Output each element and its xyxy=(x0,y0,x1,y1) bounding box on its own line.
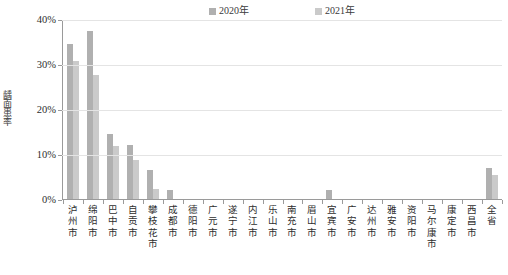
x-category-label: 自贡市 xyxy=(123,205,143,273)
x-tick-mark xyxy=(63,200,64,204)
x-category-char: 阳 xyxy=(188,216,198,227)
x-category-char: 康 xyxy=(447,205,457,216)
x-category-label: 成都市 xyxy=(163,205,183,273)
x-category-char: 宁 xyxy=(228,216,238,227)
bar xyxy=(93,75,99,199)
legend-item-2021: 2021年 xyxy=(315,6,355,16)
y-tick-label: 30% xyxy=(4,60,56,71)
y-tick-mark xyxy=(58,65,62,66)
x-category-label: 广安市 xyxy=(342,205,362,273)
x-category-char: 市 xyxy=(168,228,178,239)
x-tick-mark xyxy=(442,200,443,204)
y-tick-label: 0% xyxy=(4,195,56,206)
y-tick-label: 20% xyxy=(4,105,56,116)
x-category-char: 雅 xyxy=(387,205,397,216)
x-category-char: 昌 xyxy=(467,216,477,227)
x-category-label: 泸州市 xyxy=(63,205,83,273)
x-category-char: 巴 xyxy=(108,205,118,216)
bar xyxy=(153,189,159,199)
x-category-label: 全省 xyxy=(482,205,502,273)
x-category-char: 市 xyxy=(88,228,98,239)
x-category-char: 市 xyxy=(248,228,258,239)
legend-label-2020: 2020年 xyxy=(219,6,249,16)
x-category-char: 江 xyxy=(248,216,258,227)
x-category-char: 德 xyxy=(188,205,198,216)
bar xyxy=(492,175,498,199)
x-category-label: 巴中市 xyxy=(103,205,123,273)
x-category-char: 市 xyxy=(467,228,477,239)
x-category-char: 市 xyxy=(407,228,417,239)
bar xyxy=(167,190,173,199)
y-tick-mark xyxy=(58,20,62,21)
x-tick-mark xyxy=(302,200,303,204)
bar xyxy=(326,190,332,199)
x-category-char: 贡 xyxy=(128,216,138,227)
x-tick-mark xyxy=(183,200,184,204)
x-axis-tick-marks xyxy=(62,200,502,204)
legend-swatch-2020 xyxy=(209,8,216,15)
x-tick-mark xyxy=(283,200,284,204)
x-category-char: 都 xyxy=(168,216,178,227)
x-category-char: 成 xyxy=(168,205,178,216)
x-category-char: 州 xyxy=(367,216,377,227)
x-tick-mark xyxy=(203,200,204,204)
x-category-char: 尔 xyxy=(427,216,437,227)
x-category-char: 全 xyxy=(487,205,497,216)
x-category-char: 宜 xyxy=(327,205,337,216)
x-category-char: 市 xyxy=(327,228,337,239)
x-category-char: 市 xyxy=(68,228,78,239)
gridline xyxy=(62,110,502,111)
x-category-char: 山 xyxy=(268,216,278,227)
x-tick-mark xyxy=(223,200,224,204)
x-category-char: 资 xyxy=(407,205,417,216)
x-category-char: 市 xyxy=(347,228,357,239)
x-tick-mark xyxy=(263,200,264,204)
x-category-char: 中 xyxy=(108,216,118,227)
x-category-char: 市 xyxy=(427,239,437,250)
x-category-label: 德阳市 xyxy=(183,205,203,273)
x-category-char: 达 xyxy=(367,205,377,216)
chart-legend: 2020年 2021年 xyxy=(0,3,508,19)
x-category-char: 南 xyxy=(287,205,297,216)
x-tick-mark xyxy=(482,200,483,204)
x-category-char: 遂 xyxy=(228,205,238,216)
x-category-char: 眉 xyxy=(307,205,317,216)
x-category-label: 眉山市 xyxy=(302,205,322,273)
x-category-label: 绵阳市 xyxy=(83,205,103,273)
gridline xyxy=(62,155,502,156)
x-category-char: 山 xyxy=(307,216,317,227)
gridline xyxy=(62,65,502,66)
x-category-char: 安 xyxy=(387,216,397,227)
bar xyxy=(73,61,79,199)
x-category-char: 马 xyxy=(427,205,437,216)
x-tick-mark xyxy=(422,200,423,204)
x-tick-mark xyxy=(402,200,403,204)
x-category-char: 市 xyxy=(108,228,118,239)
x-category-char: 市 xyxy=(447,228,457,239)
x-category-char: 广 xyxy=(347,205,357,216)
x-category-char: 市 xyxy=(188,228,198,239)
x-axis-category-labels: 泸州市绵阳市巴中市自贡市攀枝花市成都市德阳市广元市遂宁市内江市乐山市南充市眉山市… xyxy=(63,205,502,273)
x-category-label: 乐山市 xyxy=(263,205,283,273)
x-category-label: 马尔康市 xyxy=(422,205,442,273)
x-category-char: 阳 xyxy=(407,216,417,227)
x-tick-mark xyxy=(322,200,323,204)
y-tick-mark xyxy=(58,155,62,156)
y-axis-tick-labels: 0%10%20%30%40% xyxy=(0,20,56,200)
plot-area xyxy=(62,20,502,200)
x-category-char: 市 xyxy=(148,239,158,250)
bar xyxy=(113,146,119,199)
x-category-char: 元 xyxy=(208,216,218,227)
x-category-label: 广元市 xyxy=(203,205,223,273)
y-tick-mark xyxy=(58,110,62,111)
x-category-char: 定 xyxy=(447,216,457,227)
x-category-char: 省 xyxy=(487,216,497,227)
x-tick-mark xyxy=(163,200,164,204)
x-tick-mark xyxy=(123,200,124,204)
x-category-char: 安 xyxy=(347,216,357,227)
x-category-char: 市 xyxy=(287,228,297,239)
x-tick-mark xyxy=(362,200,363,204)
x-category-label: 遂宁市 xyxy=(223,205,243,273)
x-category-char: 内 xyxy=(248,205,258,216)
x-category-char: 阳 xyxy=(88,216,98,227)
